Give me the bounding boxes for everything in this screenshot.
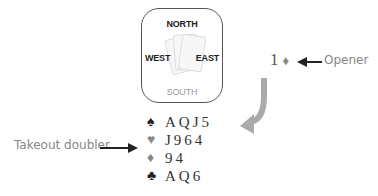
club-cards: AQ6 (165, 167, 203, 185)
hand-row-hearts: ♥ J964 (147, 131, 212, 149)
heart-icon: ♥ (147, 131, 165, 149)
doubler-hand: ♠ AQJ5 ♥ J964 ♦ 94 ♣ AQ6 (147, 113, 212, 185)
bridge-table: NORTH WEST EAST SOUTH (141, 8, 223, 103)
club-icon: ♣ (147, 167, 165, 185)
diamond-cards: 94 (165, 149, 186, 167)
opener-arrow-icon (297, 57, 323, 67)
opening-bid: 1♦ (270, 50, 289, 70)
diamond-icon: ♦ (283, 53, 290, 68)
hand-row-spades: ♠ AQJ5 (147, 113, 212, 131)
hand-row-diamonds: ♦ 94 (147, 149, 212, 167)
diamond-icon: ♦ (147, 149, 165, 167)
compass-south: SOUTH (142, 87, 222, 97)
compass-west: WEST (145, 53, 170, 63)
compass-east: EAST (196, 53, 219, 63)
doubler-label: Takeout doubler (14, 138, 110, 152)
curved-arrow-icon (240, 76, 280, 138)
spade-cards: AQJ5 (165, 113, 212, 131)
bid-level: 1 (270, 50, 279, 69)
compass-north: NORTH (142, 19, 222, 29)
doubler-arrow-icon (100, 143, 138, 153)
spade-icon: ♠ (147, 113, 165, 131)
heart-cards: J964 (165, 131, 205, 149)
hand-row-clubs: ♣ AQ6 (147, 167, 212, 185)
opener-label: Opener (324, 53, 368, 67)
